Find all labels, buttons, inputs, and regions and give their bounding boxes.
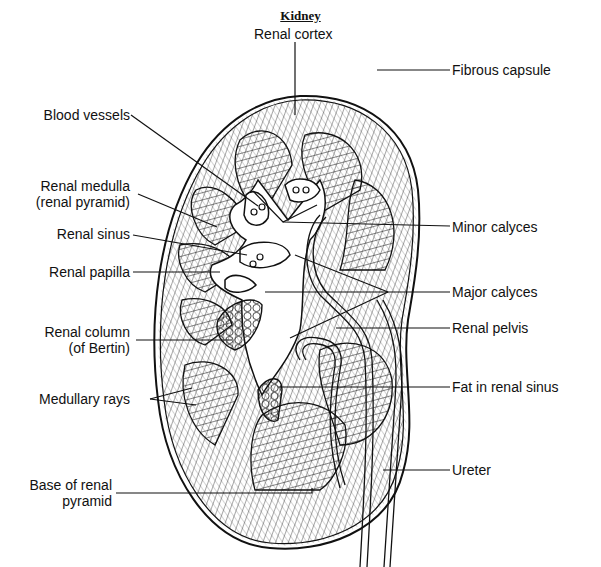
label-renal-column-line2: (of Bertin) — [20, 340, 130, 356]
label-base-pyramid-line2: pyramid — [10, 493, 112, 509]
label-renal-column-line1: Renal column — [20, 324, 130, 340]
label-ureter: Ureter — [452, 462, 491, 478]
label-base-of-renal-pyramid: Base of renal pyramid — [10, 477, 112, 509]
label-fibrous-capsule: Fibrous capsule — [452, 62, 551, 78]
label-fat-in-renal-sinus: Fat in renal sinus — [452, 379, 559, 395]
label-major-calyces: Major calyces — [452, 284, 538, 300]
label-minor-calyces: Minor calyces — [452, 219, 538, 235]
label-renal-medulla: Renal medulla (renal pyramid) — [20, 178, 130, 210]
label-blood-vessels: Blood vessels — [38, 107, 130, 123]
label-renal-medulla-line2: (renal pyramid) — [20, 194, 130, 210]
label-renal-medulla-line1: Renal medulla — [20, 178, 130, 194]
label-renal-papilla: Renal papilla — [30, 264, 130, 280]
label-renal-cortex: Renal cortex — [254, 26, 333, 42]
label-renal-column: Renal column (of Bertin) — [20, 324, 130, 356]
label-medullary-rays: Medullary rays — [20, 391, 130, 407]
label-renal-sinus: Renal sinus — [30, 226, 130, 242]
label-renal-pelvis: Renal pelvis — [452, 320, 528, 336]
label-base-pyramid-line1: Base of renal — [10, 477, 112, 493]
